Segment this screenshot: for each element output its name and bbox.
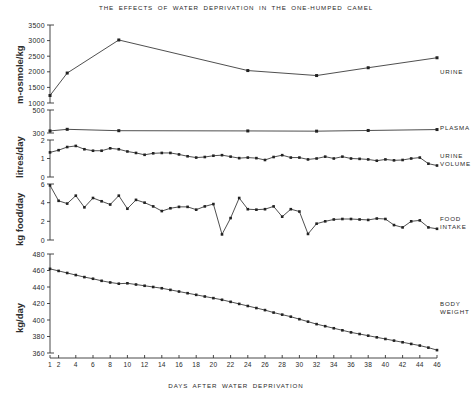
data-marker [204,205,207,208]
x-axis-tick-label: 28 [278,361,286,368]
y-axis-tick-label: 4 [41,199,45,206]
data-marker [376,217,379,220]
x-axis-tick-label: 32 [313,361,321,368]
data-marker [324,220,327,223]
data-marker [117,38,120,41]
data-marker [152,152,155,155]
data-marker [436,128,439,131]
x-axis-tick-label: 42 [399,361,407,368]
data-marker [118,282,121,285]
data-marker [186,206,189,209]
y-axis-label-food-intake: kg food/day [14,193,25,246]
data-marker [109,281,112,284]
data-marker [161,152,164,155]
data-marker [419,219,422,222]
data-marker [315,222,318,225]
data-marker [49,129,52,132]
data-marker [367,219,370,222]
x-axis-tick-label: 6 [91,361,95,368]
data-marker [49,184,52,187]
data-marker [307,233,310,236]
data-marker [143,201,146,204]
y-axis-tick-label: 0 [41,237,45,244]
y-axis-tick-label: 480 [32,251,45,258]
data-marker [221,154,224,157]
data-marker [247,208,250,211]
data-marker [161,210,164,213]
data-marker [109,203,112,206]
data-marker [393,339,396,342]
y-axis-tick-label: 440 [32,284,45,291]
data-marker [393,159,396,162]
data-marker [195,156,198,159]
data-marker [66,202,69,205]
data-marker [436,164,439,167]
data-marker [57,270,60,273]
data-marker [66,72,69,75]
data-marker [341,218,344,221]
data-marker [401,341,404,344]
data-marker [255,208,258,211]
x-axis-tick-label: 12 [141,361,149,368]
y-axis-tick-label: 6 [41,181,45,188]
data-marker [358,158,361,161]
data-marker [135,283,138,286]
data-marker [66,272,69,275]
y-axis-tick-label: 360 [32,350,45,357]
data-marker [427,162,430,165]
data-marker [238,197,241,200]
data-marker [238,157,241,160]
x-axis-tick-label: 14 [158,361,166,368]
data-marker [161,287,164,290]
data-marker [126,282,129,285]
data-marker [419,156,422,159]
y-axis-tick-label: 2000 [28,68,45,75]
data-marker [195,294,198,297]
data-marker [281,215,284,218]
data-marker [281,313,284,316]
x-axis-tick-label: 8 [108,361,112,368]
data-marker [315,130,318,133]
data-marker [221,298,224,301]
panel-body-weight: 360380400420440460480 [32,251,438,357]
data-marker [109,147,112,150]
data-marker [126,207,129,210]
panel-plasma-osmolality: 300500 [32,107,438,137]
data-marker [49,151,52,154]
data-marker [358,333,361,336]
x-axis-tick-label: 38 [364,361,372,368]
data-marker [100,200,103,203]
x-axis-tick-label: 20 [210,361,218,368]
data-marker [247,156,250,159]
data-marker [75,194,78,197]
data-marker [272,205,275,208]
x-axis-tick-label: 46 [433,361,441,368]
x-axis-tick-label: 10 [124,361,132,368]
y-axis-tick-label: 3000 [28,37,45,44]
data-marker [212,297,215,300]
data-marker [246,129,249,132]
data-marker [247,305,250,308]
data-marker [212,203,215,206]
data-marker [350,218,353,221]
data-marker [436,228,439,231]
y-axis-tick-label: 2 [41,137,45,144]
x-axis-tick-label: 16 [175,361,183,368]
data-marker [419,344,422,347]
y-axis-label-urine-volume: litres/day [14,136,25,178]
data-marker [393,224,396,227]
series-label-plasma: PLASMA [440,124,470,132]
data-marker [427,346,430,349]
y-axis-tick-label: 3500 [28,22,45,29]
data-marker [324,155,327,158]
data-marker [212,154,215,157]
data-marker [118,194,121,197]
x-axis-tick-label: 34 [330,361,338,368]
x-axis-tick-label: 4 [74,361,78,368]
data-marker [427,226,430,229]
data-marker [229,301,232,304]
data-marker [126,150,129,153]
data-marker [401,226,404,229]
y-axis-tick-label: 380 [32,333,45,340]
data-marker [178,206,181,209]
